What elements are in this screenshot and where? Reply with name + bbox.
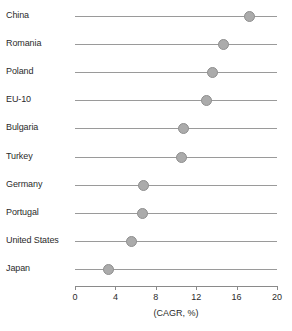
data-point[interactable]: [201, 95, 212, 106]
x-axis-title: (CAGR, %): [75, 308, 277, 319]
row-line: [75, 241, 277, 242]
row-line: [75, 213, 277, 214]
data-point[interactable]: [218, 39, 229, 50]
row-line: [75, 44, 277, 45]
data-point[interactable]: [207, 67, 218, 78]
row-line: [75, 128, 277, 129]
x-axis-tick: [156, 286, 157, 290]
x-axis-tick: [277, 286, 278, 290]
x-axis-tick-label: 8: [153, 292, 158, 303]
x-axis-tick-label: 0: [72, 292, 77, 303]
x-axis-tick-label: 20: [272, 292, 282, 303]
row-line: [75, 100, 277, 101]
x-axis-tick: [115, 286, 116, 290]
x-axis-tick: [196, 286, 197, 290]
data-point[interactable]: [178, 123, 189, 134]
data-point[interactable]: [137, 208, 148, 219]
row-line: [75, 72, 277, 73]
data-point[interactable]: [103, 264, 114, 275]
plot-area: [0, 0, 292, 300]
x-axis-tick-label: 4: [113, 292, 118, 303]
x-axis-tick-label: 12: [191, 292, 201, 303]
data-point[interactable]: [126, 236, 137, 247]
data-point[interactable]: [244, 11, 255, 22]
x-axis-tick: [75, 286, 76, 290]
data-point[interactable]: [176, 152, 187, 163]
x-axis-tick-label: 16: [232, 292, 242, 303]
data-point[interactable]: [138, 180, 149, 191]
x-axis-line: [75, 286, 277, 287]
dot-plot-chart: ChinaRomaniaPolandEU-10BulgariaTurkeyGer…: [0, 0, 292, 331]
row-line: [75, 185, 277, 186]
x-axis-tick: [237, 286, 238, 290]
